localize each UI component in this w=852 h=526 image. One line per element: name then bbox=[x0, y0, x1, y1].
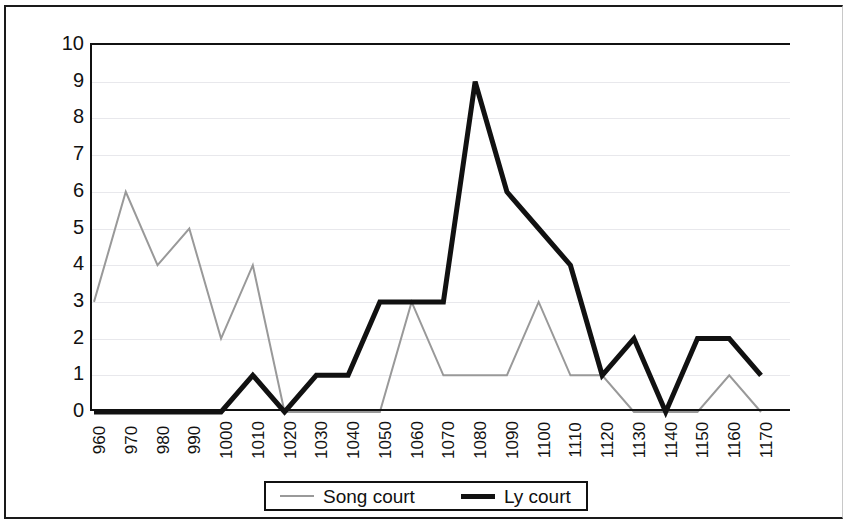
x-axis-tick-label: 970 bbox=[114, 414, 134, 476]
chart-legend: Song court Ly court bbox=[264, 481, 588, 511]
y-axis-tick-label: 4 bbox=[50, 253, 84, 273]
y-axis-tick-label: 9 bbox=[50, 70, 84, 90]
x-axis-tick-label: 1090 bbox=[495, 414, 515, 476]
legend-entry-song-court: Song court bbox=[280, 483, 415, 509]
y-axis-tick-label: 8 bbox=[50, 106, 84, 126]
y-axis-tick-label: 7 bbox=[50, 143, 84, 163]
y-axis-tick-label: 6 bbox=[50, 180, 84, 200]
y-axis-tick-label: 1 bbox=[50, 363, 84, 383]
y-axis-tick-label: 3 bbox=[50, 290, 84, 310]
x-axis-line bbox=[90, 409, 790, 411]
x-axis-tick-label: 1020 bbox=[273, 414, 293, 476]
x-axis-tick-label: 960 bbox=[82, 414, 102, 476]
y-axis-tick-label: 5 bbox=[50, 217, 84, 237]
plot-frame bbox=[90, 43, 790, 410]
series-lines bbox=[92, 45, 792, 412]
x-axis-tick-label: 1110 bbox=[558, 414, 578, 476]
x-axis-tick-label: 1040 bbox=[336, 414, 356, 476]
x-axis-tick-label: 1100 bbox=[527, 414, 547, 476]
legend-label-ly-court: Ly court bbox=[504, 487, 571, 506]
x-axis-tick-label: 1140 bbox=[654, 414, 674, 476]
x-axis-tick-label: 1120 bbox=[590, 414, 610, 476]
x-axis-tick-label: 980 bbox=[146, 414, 166, 476]
x-axis-tick-label: 1130 bbox=[622, 414, 642, 476]
x-axis-tick-label: 1150 bbox=[685, 414, 705, 476]
legend-swatch-song-court bbox=[280, 495, 314, 497]
chart-figure: 109876543210 960970980990100010101020103… bbox=[0, 0, 852, 526]
x-axis-tick-label: 1010 bbox=[241, 414, 261, 476]
x-axis-tick-labels: 9609709809901000101010201030104010501060… bbox=[90, 414, 790, 476]
legend-swatch-ly-court bbox=[461, 494, 495, 499]
legend-entry-ly-court: Ly court bbox=[461, 483, 571, 509]
y-axis-tick-label: 10 bbox=[50, 33, 84, 53]
x-axis-tick-label: 990 bbox=[177, 414, 197, 476]
y-axis-tick-label: 2 bbox=[50, 327, 84, 347]
legend-label-song-court: Song court bbox=[323, 487, 415, 506]
x-axis-tick-label: 1160 bbox=[717, 414, 737, 476]
x-axis-tick-label: 1070 bbox=[431, 414, 451, 476]
x-axis-tick-label: 1080 bbox=[463, 414, 483, 476]
x-axis-tick-label: 1050 bbox=[368, 414, 388, 476]
y-axis-tick-labels: 109876543210 bbox=[44, 43, 84, 410]
y-axis-tick-label: 0 bbox=[50, 400, 84, 420]
x-axis-tick-label: 1170 bbox=[749, 414, 769, 476]
x-axis-tick-label: 1000 bbox=[209, 414, 229, 476]
x-axis-tick-label: 1060 bbox=[400, 414, 420, 476]
chart-plot-region: 109876543210 960970980990100010101020103… bbox=[0, 0, 852, 526]
x-axis-tick-label: 1030 bbox=[304, 414, 324, 476]
